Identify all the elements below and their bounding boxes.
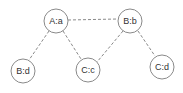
edge-b-b-to-c-c (97, 31, 123, 62)
node-c-c: C:c (76, 58, 100, 82)
node-c-c-label: C:c (81, 65, 95, 75)
edge-a-a-to-c-c (63, 31, 81, 59)
edge-a-a-to-b-d (29, 31, 49, 60)
node-b-b-label: B:b (123, 16, 137, 26)
node-c-d: C:d (150, 55, 174, 79)
node-a-a-label: A:a (49, 16, 63, 26)
node-b-b: B:b (118, 9, 142, 33)
node-b-d: B:d (11, 59, 35, 83)
node-c-d-label: C:d (155, 62, 169, 72)
graph-diagram: A:a B:b B:d C:c C:d (0, 0, 183, 93)
node-a-a: A:a (44, 9, 68, 33)
edge-a-a-to-b-b (68, 19, 118, 20)
node-b-d-label: B:d (16, 66, 30, 76)
edge-b-b-to-c-d (138, 31, 155, 56)
